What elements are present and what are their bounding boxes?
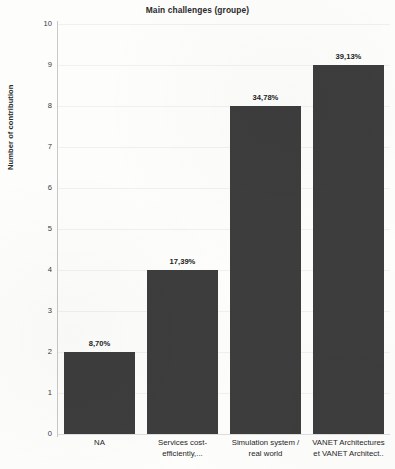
x-axis-category-label-line: et VANET Architect..	[300, 449, 395, 460]
y-axis-tick-label: 10	[32, 19, 52, 28]
y-axis-tick-label: 7	[32, 142, 52, 151]
y-axis-tick-label: 4	[32, 265, 52, 274]
y-axis-tick-label: 9	[32, 60, 52, 69]
y-axis-tick-label: 0	[32, 429, 52, 438]
bar-value-label: 17,39%	[135, 257, 230, 266]
y-axis-tick-label: 6	[32, 183, 52, 192]
bar[interactable]	[64, 352, 135, 434]
y-axis-tick-label: 3	[32, 306, 52, 315]
gridline	[58, 24, 390, 25]
chart-title: Main challenges (groupe)	[0, 5, 395, 15]
bar[interactable]	[230, 106, 301, 434]
bar-value-label: 39,13%	[301, 52, 395, 61]
x-axis-category-label-line: VANET Architectures	[300, 438, 395, 449]
y-axis-tick-label: 8	[32, 101, 52, 110]
y-axis-tick-label: 2	[32, 347, 52, 356]
bar-value-label: 8,70%	[52, 339, 147, 348]
bar[interactable]	[313, 65, 384, 434]
gridline	[58, 434, 390, 435]
plot-area: 109876543210	[58, 24, 390, 434]
bar-value-label: 34,78%	[218, 93, 313, 102]
y-axis-tick-label: 5	[32, 224, 52, 233]
bar-chart: Main challenges (groupe) Number of contr…	[0, 0, 395, 469]
y-axis-tick-label: 1	[32, 388, 52, 397]
y-axis-title: Number of contribution	[6, 40, 15, 170]
x-axis-category-label: VANET Architectureset VANET Architect..	[300, 438, 395, 459]
bar[interactable]	[147, 270, 218, 434]
